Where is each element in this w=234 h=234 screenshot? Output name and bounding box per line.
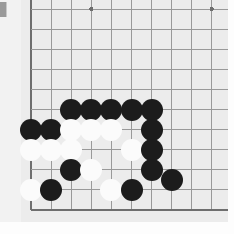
black-stone[interactable] bbox=[40, 179, 62, 201]
white-stone[interactable] bbox=[20, 179, 42, 201]
black-stone[interactable] bbox=[80, 99, 102, 121]
white-stone[interactable] bbox=[20, 139, 42, 161]
white-stone[interactable] bbox=[80, 159, 102, 181]
corner-marker-icon bbox=[0, 2, 7, 17]
black-stone[interactable] bbox=[141, 99, 163, 121]
white-stone[interactable] bbox=[60, 119, 82, 141]
black-stone[interactable] bbox=[141, 119, 163, 141]
white-stone[interactable] bbox=[40, 139, 62, 161]
white-stone[interactable] bbox=[80, 119, 102, 141]
white-stone[interactable] bbox=[121, 139, 143, 161]
black-stone[interactable] bbox=[141, 159, 163, 181]
black-stone[interactable] bbox=[141, 139, 163, 161]
board-right-margin bbox=[228, 0, 234, 234]
white-stone[interactable] bbox=[60, 139, 82, 161]
black-stone[interactable] bbox=[20, 119, 42, 141]
black-stone[interactable] bbox=[121, 179, 143, 201]
white-stone[interactable] bbox=[100, 119, 122, 141]
black-stone[interactable] bbox=[60, 99, 82, 121]
white-stone[interactable] bbox=[100, 179, 122, 201]
go-board-screenshot bbox=[0, 0, 234, 234]
board-bottom-margin bbox=[0, 222, 234, 234]
stone-layer bbox=[0, 0, 234, 234]
black-stone[interactable] bbox=[121, 99, 143, 121]
black-stone[interactable] bbox=[40, 119, 62, 141]
black-stone[interactable] bbox=[161, 169, 183, 191]
black-stone[interactable] bbox=[100, 99, 122, 121]
black-stone[interactable] bbox=[60, 159, 82, 181]
